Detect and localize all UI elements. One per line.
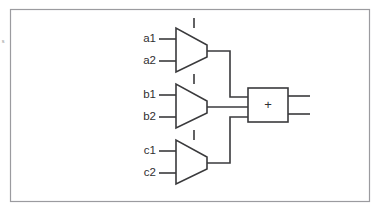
mux-b-body (176, 84, 207, 128)
mux-a: a1 a2 (143, 18, 207, 72)
adder-plus-symbol: + (264, 97, 272, 112)
mux-b-input-1-label: b1 (143, 88, 156, 100)
mux-a-body (176, 28, 207, 72)
mux-b: b1 b2 (143, 74, 207, 128)
mux-b-input-2-label: b2 (143, 110, 156, 122)
schematic-figure: s a1 a2 b1 b2 c1 c2 (0, 0, 380, 212)
schematic-canvas: s a1 a2 b1 b2 c1 c2 (0, 0, 380, 212)
mux-c-body (176, 140, 207, 184)
adder: + (248, 88, 310, 122)
margin-clipped-text: s (2, 37, 5, 45)
mux-c: c1 c2 (144, 130, 207, 184)
mux-c-input-1-label: c1 (144, 144, 156, 156)
wire-mux-a-to-adder (207, 51, 248, 97)
mux-a-input-1-label: a1 (143, 32, 156, 44)
mux-c-input-2-label: c2 (144, 166, 156, 178)
wire-mux-c-to-adder (207, 117, 248, 163)
mux-a-input-2-label: a2 (143, 54, 156, 66)
